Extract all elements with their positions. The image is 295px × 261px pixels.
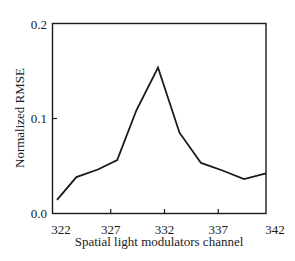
y-axis-label: Normalized RMSE (12, 68, 27, 168)
x-tick-label: 342 (265, 222, 285, 237)
x-axis-label: Spatial light modulators channel (75, 234, 244, 249)
y-tick-label: 0.1 (31, 111, 47, 126)
line-chart: 322327332337342 0.00.10.2 Spatial light … (0, 0, 295, 261)
y-tick-label: 0.2 (31, 17, 47, 32)
plot-frame (53, 24, 267, 214)
y-tick-label: 0.0 (31, 206, 47, 221)
rmse-line (57, 68, 266, 200)
x-tick-label: 322 (51, 222, 71, 237)
